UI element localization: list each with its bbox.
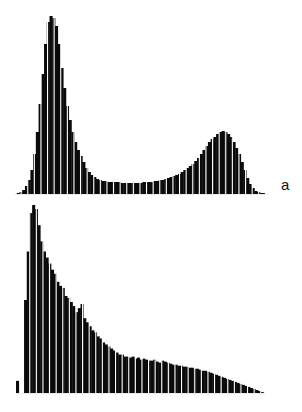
bin-separator (120, 0, 121, 194)
bin-separator (258, 0, 259, 194)
bin-separator (42, 200, 43, 393)
bin-separator (80, 0, 81, 194)
histogram-bar (228, 380, 231, 393)
histogram-bar (46, 258, 49, 393)
bin-separator (234, 200, 235, 393)
bin-separator (62, 200, 63, 393)
bin-separator (106, 0, 107, 194)
histogram-bar (83, 318, 86, 393)
histogram-bar (236, 383, 239, 393)
histogram-bar (105, 344, 108, 393)
histogram-bar (218, 376, 221, 393)
histogram-bar (24, 300, 27, 393)
histogram-bar (150, 361, 153, 393)
bin-separator (166, 0, 167, 194)
bin-separator (34, 0, 35, 194)
bin-separator (221, 200, 222, 393)
histogram-bar (59, 286, 62, 393)
histogram-bar (156, 181, 159, 194)
bin-separator (168, 200, 169, 393)
bin-separator (265, 0, 266, 194)
bin-separator (172, 0, 173, 194)
bin-separator (201, 200, 202, 393)
bin-separator (73, 0, 74, 194)
histogram-bar (145, 360, 148, 393)
bin-separator (141, 200, 142, 393)
bin-separator (254, 200, 255, 393)
histogram-bar (101, 181, 104, 194)
baseline (16, 393, 266, 394)
bin-separator (82, 200, 83, 393)
histogram-bar (223, 378, 226, 393)
histogram-bar (200, 154, 203, 194)
histogram-bar (177, 366, 180, 393)
histogram-bar (222, 131, 225, 194)
histogram-bar (41, 74, 44, 194)
bin-separator (153, 0, 154, 194)
bin-separator (192, 0, 193, 194)
bin-separator (23, 200, 24, 393)
bin-separator (174, 200, 175, 393)
bin-separator (212, 0, 213, 194)
bin-separator (159, 0, 160, 194)
histogram-bar (16, 381, 19, 393)
histogram-a: a (0, 0, 302, 200)
histogram-bar (202, 150, 205, 194)
histogram-bar (51, 270, 54, 393)
histogram-bar (74, 142, 77, 194)
histogram-bar (90, 175, 93, 194)
bin-separator (148, 200, 149, 393)
bin-separator (225, 0, 226, 194)
histogram-bar (246, 178, 249, 194)
histogram-bar (97, 336, 100, 393)
histogram-bar (227, 134, 230, 194)
histogram-bar (110, 349, 113, 393)
histogram-bar (232, 142, 235, 194)
histogram-bar (55, 26, 58, 194)
histogram-bar (235, 148, 238, 194)
bin-separator (161, 200, 162, 393)
histogram-bar (215, 375, 218, 393)
bin-separator (139, 0, 140, 194)
bin-separator (36, 200, 37, 393)
histogram-bar (161, 180, 164, 194)
bin-separator (232, 0, 233, 194)
histogram-bar (129, 358, 132, 393)
histogram-bar (156, 362, 159, 393)
panel-label-a: a (281, 176, 289, 193)
histogram-bar (189, 166, 192, 194)
histogram-bar (142, 182, 145, 194)
histogram-bar (64, 296, 67, 393)
histogram-bar (181, 172, 184, 194)
histogram-bar (121, 183, 124, 194)
bin-separator (194, 200, 195, 393)
bin-separator (29, 200, 30, 393)
histogram-bar (22, 190, 25, 194)
histogram-bar (249, 184, 252, 194)
baseline (14, 194, 268, 195)
histogram-bar (44, 44, 47, 194)
bin-separator (27, 0, 28, 194)
bin-separator (245, 0, 246, 194)
bin-separator (155, 200, 156, 393)
histogram-bar (250, 388, 253, 393)
bin-separator (95, 200, 96, 393)
histogram-bar (132, 357, 135, 393)
bin-separator (75, 200, 76, 393)
histogram-bar (142, 359, 145, 393)
histogram-bar (254, 191, 257, 194)
bin-separator (247, 200, 248, 393)
histogram-bar (38, 225, 41, 393)
histogram-bar (169, 364, 172, 393)
bin-separator (69, 200, 70, 393)
histogram-bar (56, 282, 59, 393)
histogram-bar (148, 182, 151, 194)
bin-separator (179, 0, 180, 194)
histogram-bar (77, 150, 80, 194)
histogram-bar (204, 371, 207, 393)
histogram-bar (86, 322, 89, 393)
bin-separator (199, 0, 200, 194)
histogram-bar (88, 172, 91, 194)
histogram-bar (153, 181, 156, 194)
bin-separator (135, 200, 136, 393)
